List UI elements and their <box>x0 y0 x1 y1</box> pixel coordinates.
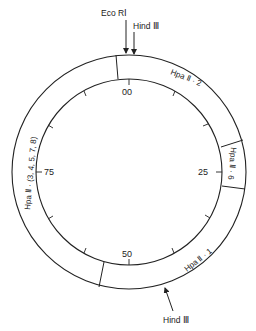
boundary-top <box>116 55 118 79</box>
hind-iii-bottom-label: Hind Ⅲ <box>163 315 189 325</box>
fragment-label-hpa2-2: Hpa Ⅱ · 2 <box>169 68 203 89</box>
boundary-bottom <box>99 262 104 287</box>
scale-ticks <box>36 79 222 265</box>
boundary-right-lower <box>222 186 245 189</box>
restriction-map: 00 25 50 75 Eco RⅠ Hind Ⅲ Hind Ⅲ Hpa Ⅱ ·… <box>0 0 256 331</box>
fragment-label-hpa2-6: Hpa Ⅱ · 6 <box>226 147 238 181</box>
inner-ring <box>36 79 222 265</box>
hind-iii-top-label: Hind Ⅲ <box>133 21 159 31</box>
scale-label-25: 25 <box>198 167 208 177</box>
scale-label-75: 75 <box>44 167 54 177</box>
scale-label-50: 50 <box>122 249 132 259</box>
eco-ri-label: Eco RⅠ <box>101 8 127 18</box>
hind-iii-bottom-arrow <box>165 288 173 311</box>
scale-label-00: 00 <box>122 87 132 97</box>
boundary-right-upper <box>221 140 243 147</box>
fragment-label-hpa2-1: Hpa Ⅱ · 1 <box>183 246 215 273</box>
